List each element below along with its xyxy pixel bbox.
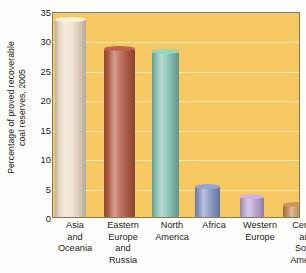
bar bbox=[152, 52, 179, 217]
bars-layer bbox=[53, 13, 299, 217]
bar-top-ellipse bbox=[240, 194, 264, 199]
bar-chart: Percentage of proved recoverable coal re… bbox=[0, 0, 306, 273]
bar-top-ellipse bbox=[195, 184, 220, 189]
bar bbox=[55, 19, 86, 217]
y-tick-label: 10 bbox=[30, 154, 51, 165]
bar bbox=[195, 186, 220, 217]
y-tick-label: 20 bbox=[30, 95, 51, 106]
bar bbox=[283, 205, 300, 217]
y-tick-label: 25 bbox=[30, 65, 51, 76]
x-label-eastern-europe-and-russia: Eastern Europe and Russia bbox=[97, 220, 149, 266]
bar-top-ellipse bbox=[55, 17, 86, 22]
y-axis-title: Percentage of proved recoverable coal re… bbox=[0, 0, 34, 215]
bar bbox=[104, 49, 135, 217]
y-axis-tick-labels: 35 30 25 20 15 10 5 0 bbox=[30, 0, 51, 273]
bar-top-ellipse bbox=[283, 202, 300, 207]
y-tick-label: 30 bbox=[30, 36, 51, 47]
y-tick-label: 5 bbox=[30, 183, 51, 194]
bar bbox=[240, 197, 264, 217]
y-tick-label: 15 bbox=[30, 124, 51, 135]
x-label-asia-and-oceania: Asia and Oceania bbox=[49, 220, 101, 255]
y-tick-label: 0 bbox=[30, 213, 51, 224]
x-label-central-and-south-america: Central and South America bbox=[280, 220, 306, 266]
bar-top-ellipse bbox=[104, 46, 135, 51]
x-axis-labels: Asia and Oceania Eastern Europe and Russ… bbox=[52, 220, 306, 273]
plot-area bbox=[52, 12, 300, 218]
y-tick-label: 35 bbox=[30, 7, 51, 18]
bar-top-ellipse bbox=[152, 49, 179, 54]
